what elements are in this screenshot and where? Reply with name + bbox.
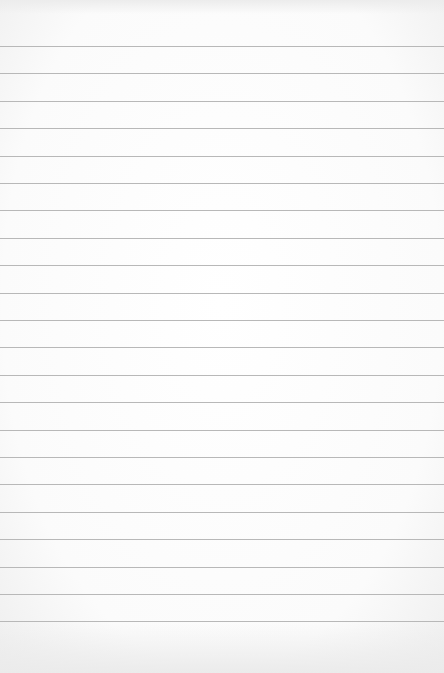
lined-paper [0,0,444,673]
ruled-line [0,457,444,458]
ruled-line [0,402,444,403]
ruled-line [0,238,444,239]
ruled-line [0,101,444,102]
ruled-line [0,539,444,540]
ruled-line [0,512,444,513]
ruled-line [0,183,444,184]
ruled-line [0,265,444,266]
ruled-line [0,484,444,485]
ruled-line [0,621,444,622]
ruled-line [0,210,444,211]
ruled-line [0,46,444,47]
top-edge-shadow [0,0,444,14]
ruled-line [0,567,444,568]
bottom-edge-shadow [0,623,444,673]
ruled-line [0,156,444,157]
ruled-line [0,375,444,376]
ruled-line [0,430,444,431]
ruled-line [0,128,444,129]
ruled-line [0,594,444,595]
ruled-line [0,347,444,348]
ruled-line [0,320,444,321]
ruled-line [0,73,444,74]
ruled-line [0,293,444,294]
